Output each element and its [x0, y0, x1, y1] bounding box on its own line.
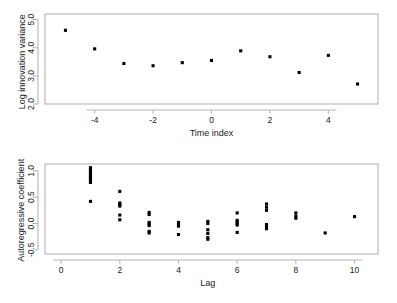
data-point — [177, 233, 180, 236]
plot-area-top: -4-2024Time index2.03.04.05.0Log innovat… — [0, 0, 397, 150]
data-point — [206, 222, 209, 225]
data-point — [148, 213, 151, 216]
data-point — [89, 181, 92, 184]
data-point — [118, 205, 121, 208]
data-point — [181, 61, 184, 64]
x-tick-label: 0 — [209, 115, 214, 125]
data-point — [210, 59, 213, 62]
data-point — [239, 49, 242, 52]
x-tick-label: 8 — [293, 265, 298, 275]
data-point — [122, 62, 125, 65]
x-tick-label: 4 — [326, 115, 331, 125]
data-point — [327, 54, 330, 57]
data-point — [294, 211, 297, 214]
data-point — [265, 227, 268, 230]
data-point — [118, 218, 121, 221]
data-point — [265, 206, 268, 209]
data-point — [356, 82, 359, 85]
y-axis-title: Log innovation variance — [17, 14, 27, 109]
x-axis-title: Lag — [200, 278, 215, 288]
data-point — [152, 64, 155, 67]
data-point — [64, 29, 67, 32]
panel-log-innovation-variance: -4-2024Time index2.03.04.05.0Log innovat… — [0, 0, 397, 150]
y-axis-title: Autoregressive coefficient — [16, 158, 26, 261]
y-tick-label: 3.0 — [26, 70, 36, 82]
plot-frame — [45, 164, 378, 254]
data-point — [93, 47, 96, 50]
x-tick-label: -2 — [149, 115, 157, 125]
data-point — [177, 225, 180, 228]
panel-autoregressive-coefficient: 0246810Lag-0.50.00.51.0Autoregressive co… — [0, 152, 397, 303]
data-point — [206, 228, 209, 231]
x-tick-label: 2 — [117, 265, 122, 275]
data-point — [89, 200, 92, 203]
data-point — [118, 214, 121, 217]
y-tick-label: 0.5 — [26, 191, 36, 203]
y-tick-label: 5.0 — [26, 13, 36, 25]
data-point — [324, 231, 327, 234]
data-point — [236, 211, 239, 214]
x-tick-label: 2 — [268, 115, 273, 125]
x-axis-title: Time index — [190, 128, 234, 138]
data-point — [118, 190, 121, 193]
x-tick-label: 0 — [59, 265, 64, 275]
data-point — [265, 209, 268, 212]
data-point — [206, 238, 209, 241]
data-point — [148, 224, 151, 227]
x-tick-label: 10 — [350, 265, 360, 275]
y-tick-label: -0.5 — [26, 242, 36, 257]
x-tick-label: -4 — [91, 115, 99, 125]
data-point — [148, 231, 151, 234]
figure-container: -4-2024Time index2.03.04.05.0Log innovat… — [0, 0, 397, 303]
data-point — [353, 215, 356, 218]
plot-area-bottom: 0246810Lag-0.50.00.51.0Autoregressive co… — [0, 152, 397, 303]
data-point — [236, 224, 239, 227]
data-point — [206, 232, 209, 235]
x-tick-label: 4 — [176, 265, 181, 275]
y-tick-label: 4.0 — [26, 42, 36, 54]
x-tick-label: 6 — [235, 265, 240, 275]
y-tick-label: 1.0 — [26, 165, 36, 177]
data-point — [268, 55, 271, 58]
data-point — [298, 71, 301, 74]
data-point — [236, 231, 239, 234]
data-point — [265, 202, 268, 205]
data-point — [294, 217, 297, 220]
y-tick-label: 2.0 — [26, 98, 36, 110]
y-tick-label: 0.0 — [26, 217, 36, 229]
